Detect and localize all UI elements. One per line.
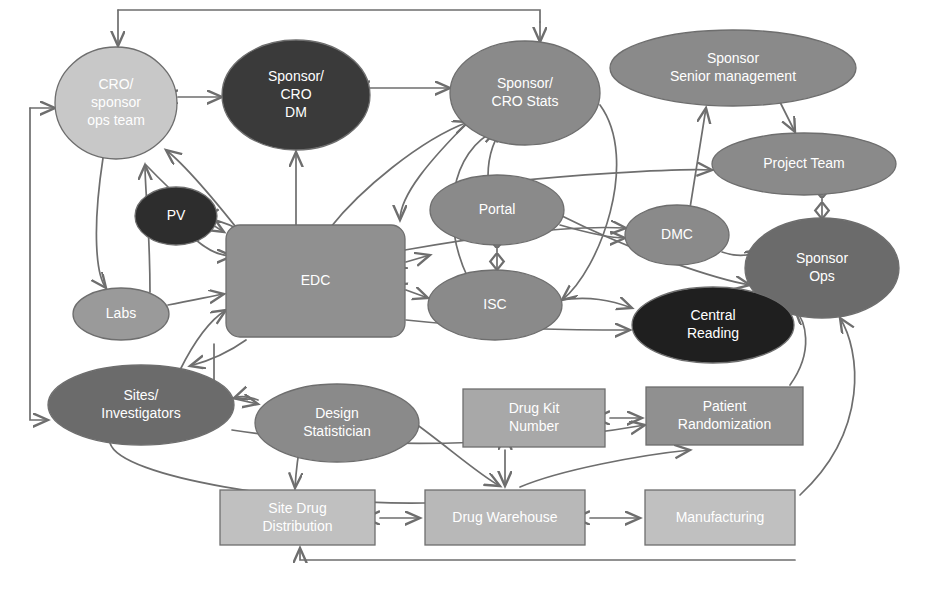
node-shape-drug-warehouse bbox=[425, 490, 585, 545]
edge-manufacturing-to-sponsor-ops bbox=[800, 318, 855, 495]
node-shape-pv bbox=[135, 187, 217, 245]
node-shape-patient-randomization bbox=[646, 387, 803, 445]
node-shape-manufacturing bbox=[645, 490, 795, 545]
node-pv[interactable]: PV bbox=[135, 187, 217, 245]
edge-dmc-to-sponsor-senior-management bbox=[690, 108, 706, 208]
node-shape-central-reading bbox=[632, 287, 794, 363]
node-shape-cro-sponsor-ops-team bbox=[55, 47, 177, 159]
edge-edc-to-sites-investigators bbox=[190, 340, 246, 366]
node-shape-project-team bbox=[712, 133, 896, 195]
node-isc[interactable]: ISC bbox=[428, 270, 562, 340]
diagram-canvas: CRO/sponsorops teamSponsor/CRODMSponsor/… bbox=[0, 0, 926, 596]
node-shape-sponsor-senior-management bbox=[610, 30, 856, 106]
node-drug-warehouse[interactable]: Drug Warehouse bbox=[425, 490, 585, 545]
node-shape-portal bbox=[430, 175, 564, 245]
edge-edc-to-isc bbox=[406, 290, 428, 298]
node-shape-site-drug-distribution bbox=[220, 490, 375, 545]
node-drug-kit-number[interactable]: Drug KitNumber bbox=[463, 389, 605, 447]
node-cro-sponsor-ops-team[interactable]: CRO/sponsorops team bbox=[55, 47, 177, 159]
edge-sites-investigators-to-edc bbox=[180, 310, 226, 370]
node-shape-isc bbox=[428, 270, 562, 340]
edge-drug-warehouse-to-patient-randomization bbox=[520, 450, 690, 487]
node-edc[interactable]: EDC bbox=[226, 225, 405, 337]
node-shape-sites-investigators bbox=[48, 365, 234, 445]
node-sites-investigators[interactable]: Sites/Investigators bbox=[48, 365, 234, 445]
node-patient-randomization[interactable]: PatientRandomization bbox=[646, 387, 803, 445]
node-shape-sponsor-cro-stats bbox=[450, 41, 600, 145]
flow-diagram: CRO/sponsorops teamSponsor/CRODMSponsor/… bbox=[0, 0, 926, 596]
node-labs[interactable]: Labs bbox=[73, 288, 169, 340]
edge-sponsor-senior-management-to-project-team bbox=[780, 102, 795, 132]
node-shape-design-statistician bbox=[255, 384, 419, 462]
node-manufacturing[interactable]: Manufacturing bbox=[645, 490, 795, 545]
node-portal[interactable]: Portal bbox=[430, 175, 564, 245]
node-design-statistician[interactable]: DesignStatistician bbox=[255, 384, 419, 462]
node-sponsor-cro-stats[interactable]: Sponsor/CRO Stats bbox=[450, 41, 600, 145]
node-shape-labs bbox=[73, 288, 169, 340]
node-sponsor-cro-dm[interactable]: Sponsor/CRODM bbox=[222, 40, 370, 150]
node-shape-dmc bbox=[625, 205, 729, 265]
edge-isc-to-central-reading bbox=[560, 298, 632, 308]
node-site-drug-distribution[interactable]: Site DrugDistribution bbox=[220, 490, 375, 545]
node-dmc[interactable]: DMC bbox=[625, 205, 729, 265]
edge-edc-to-portal bbox=[406, 255, 430, 262]
node-shape-edc bbox=[226, 225, 405, 337]
edge-left-rail-down-to-sites-investigators bbox=[30, 108, 48, 420]
edge-external-top-to-cro-sponsor-ops-team bbox=[118, 10, 540, 22]
node-sponsor-senior-management[interactable]: SponsorSenior management bbox=[610, 30, 856, 106]
node-shape-sponsor-cro-dm bbox=[222, 40, 370, 150]
node-central-reading[interactable]: CentralReading bbox=[632, 287, 794, 363]
edge-labs-to-edc bbox=[168, 294, 224, 305]
node-project-team[interactable]: Project Team bbox=[712, 133, 896, 195]
node-shape-drug-kit-number bbox=[463, 389, 605, 447]
edge-cro-sponsor-ops-team-to-labs bbox=[96, 158, 106, 288]
edge-manufacturing-rail-to-site-drug-distribution bbox=[300, 548, 795, 560]
